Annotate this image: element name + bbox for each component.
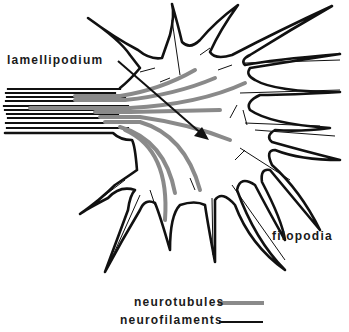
label-lamellipodium: lamellipodium	[7, 53, 103, 67]
legend-label-neurofilaments: neurofilaments	[120, 313, 223, 327]
growth-cone-diagram	[0, 0, 349, 332]
label-filopodia: filopodia	[272, 229, 333, 243]
legend-label-neurotubules: neurotubules	[134, 295, 224, 309]
